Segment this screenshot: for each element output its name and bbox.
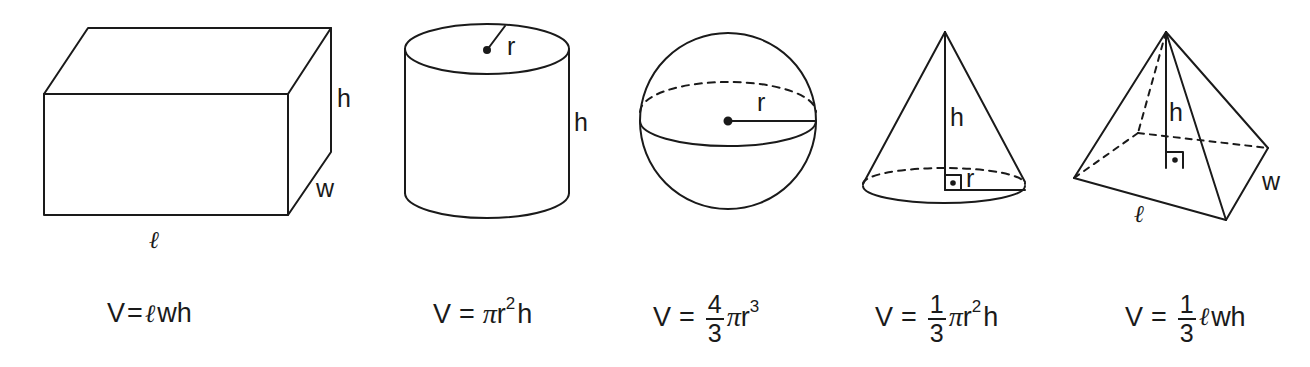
formula-tail: wh (1211, 302, 1246, 333)
denominator: 3 (708, 320, 722, 346)
sphere-shape (640, 33, 816, 209)
numerator: 1 (1178, 292, 1196, 320)
equals-sign: = (901, 302, 917, 333)
fraction: 1 3 (928, 292, 946, 346)
pi-symbol: π (727, 301, 741, 333)
prism-volume-formula: V = ℓ wh (107, 298, 192, 329)
numerator: 4 (706, 292, 724, 320)
sphere-volume-formula: V = 4 3 π r 3 (653, 290, 759, 344)
cone-shape (863, 32, 1025, 203)
volume-symbol: V (107, 298, 125, 329)
pyramid-height-label: h (1169, 100, 1183, 125)
denominator: 3 (930, 320, 944, 346)
cone-volume-formula: V = 1 3 π r 2 h (875, 290, 998, 344)
prism-width-label: w (316, 176, 334, 201)
equals-sign: = (459, 299, 475, 330)
equals-sign: = (127, 298, 143, 329)
cylinder-height-label: h (574, 110, 588, 135)
prism-length-label: ℓ (149, 228, 159, 252)
cylinder-volume-formula: V = π r 2 h (433, 298, 532, 330)
radius-symbol: r (963, 302, 972, 333)
formula-tail: h (983, 302, 998, 333)
volume-symbol: V (433, 299, 451, 330)
pyramid-width-label: w (1262, 169, 1280, 194)
exponent: 2 (506, 294, 515, 314)
exponent: 2 (972, 297, 981, 317)
numerator: 1 (928, 292, 946, 320)
sphere-radius-label: r (757, 90, 765, 115)
radius-symbol: r (741, 302, 750, 333)
cone-height-label: h (950, 105, 964, 130)
pi-symbol: π (949, 301, 963, 333)
fraction: 1 3 (1178, 292, 1196, 346)
pyramid-volume-formula: V = 1 3 ℓ wh (1125, 290, 1246, 344)
equals-sign: = (679, 302, 695, 333)
equals-sign: = (1151, 302, 1167, 333)
denominator: 3 (1180, 320, 1194, 346)
volume-symbol: V (875, 302, 893, 333)
volume-symbol: V (653, 302, 671, 333)
cone-radius-label: r (966, 166, 974, 191)
prism-height-label: h (337, 86, 351, 111)
volume-symbol: V (1125, 302, 1143, 333)
radius-symbol: r (497, 299, 506, 330)
cylinder-radius-label: r (507, 34, 515, 59)
exponent: 3 (750, 297, 759, 317)
cylinder-shape (405, 24, 569, 218)
pyramid-shape (1074, 32, 1268, 220)
length-symbol: ℓ (145, 300, 155, 328)
fraction: 4 3 (706, 292, 724, 346)
pyramid-length-label: ℓ (1134, 202, 1144, 226)
rectangular-prism-shape (44, 28, 331, 215)
formula-tail: h (517, 299, 532, 330)
formula-tail: wh (157, 298, 192, 329)
pi-symbol: π (483, 298, 497, 330)
length-symbol: ℓ (1199, 303, 1209, 331)
